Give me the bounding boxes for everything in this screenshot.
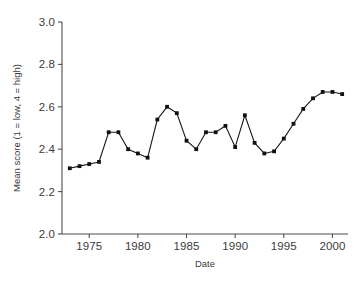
y-tick-label: 2.4 [39,143,56,155]
y-tick-label: 2.2 [39,186,55,198]
data-point-marker [78,164,82,168]
x-tick-label: 1985 [174,240,200,252]
data-point-marker [68,166,72,170]
data-point-marker [321,90,325,94]
data-point-marker [301,107,305,111]
data-point-marker [262,152,266,156]
data-point-marker [292,122,296,126]
data-point-marker [204,130,208,134]
data-point-marker [272,149,276,153]
data-point-marker [194,147,198,151]
y-axis-title: Mean score (1 = low, 4 = high) [11,64,22,192]
data-point-marker [146,156,150,160]
data-point-marker [175,111,179,115]
data-point-marker [165,105,169,109]
data-point-marker [331,90,335,94]
data-point-marker [107,130,111,134]
x-tick-label: 1995 [271,240,297,252]
data-point-marker [224,124,228,128]
y-tick-label: 2.0 [39,228,55,240]
chart-axes [62,22,348,234]
data-point-marker [155,118,159,122]
y-tick-label: 2.6 [39,101,55,113]
data-point-marker [136,152,140,156]
data-point-marker [117,130,121,134]
x-tick-label: 1990 [222,240,248,252]
data-point-marker [185,139,189,143]
data-point-marker [233,145,237,149]
data-point-marker [282,137,286,141]
x-tick-label: 1980 [125,240,151,252]
line-chart: 2.02.22.42.62.83.01975198019851990199520… [0,0,363,284]
chart-figure: 2.02.22.42.62.83.01975198019851990199520… [0,0,363,284]
y-tick-label: 3.0 [39,16,55,28]
data-point-marker [126,147,130,151]
data-point-marker [214,130,218,134]
data-point-marker [87,162,91,166]
series-polyline [70,92,342,168]
chart-ticks: 2.02.22.42.62.83.01975198019851990199520… [39,16,346,252]
chart-series [68,90,344,170]
data-point-marker [311,96,315,100]
data-point-marker [340,92,344,96]
y-tick-label: 2.8 [39,58,55,70]
data-point-marker [243,113,247,117]
data-point-marker [253,141,257,145]
x-tick-label: 1975 [76,240,102,252]
x-tick-label: 2000 [319,240,345,252]
x-axis-title: Date [195,258,215,269]
data-point-marker [97,160,101,164]
